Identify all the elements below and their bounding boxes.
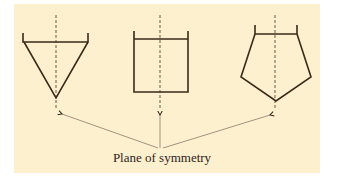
square-shape	[134, 15, 188, 108]
pointer-arrows	[62, 114, 270, 148]
triangle-shape	[23, 15, 88, 108]
symmetry-diagram: Plane of symmetry	[0, 0, 340, 183]
caption-label: Plane of symmetry	[113, 150, 212, 165]
pentagon-shape	[241, 15, 311, 108]
